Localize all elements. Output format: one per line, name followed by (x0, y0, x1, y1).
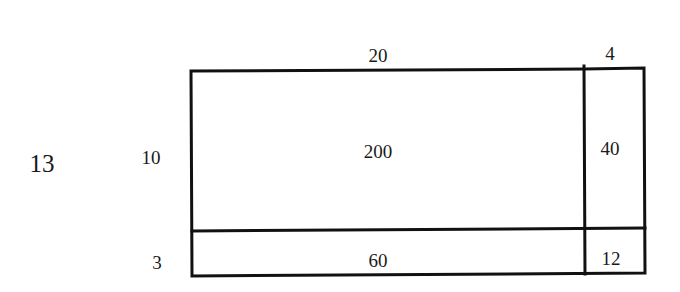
area-model-grid (0, 0, 680, 292)
cell-product-60: 60 (369, 251, 388, 270)
vertical-divider (584, 66, 585, 274)
cell-product-12: 12 (602, 249, 621, 268)
cell-product-40: 40 (601, 139, 620, 158)
total-factor-label: 13 (30, 151, 55, 176)
outer-rectangle (191, 68, 645, 276)
row-label-ones: 3 (152, 253, 162, 272)
horizontal-divider (192, 228, 645, 231)
column-label-tens: 20 (369, 46, 388, 65)
row-label-tens: 10 (142, 148, 161, 167)
column-label-ones: 4 (605, 44, 615, 63)
cell-product-200: 200 (364, 142, 393, 161)
